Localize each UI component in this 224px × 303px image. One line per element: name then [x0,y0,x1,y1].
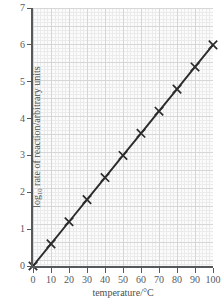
x-axis-tick [87,268,88,273]
y-axis-tick-label: 7 [11,3,25,13]
x-axis-line [31,266,213,268]
y-axis-tick-label: 4 [11,114,25,124]
x-axis-tick [51,268,52,273]
data-point-marker [137,129,145,137]
plot-svg [33,8,213,266]
data-point-marker [47,240,55,248]
x-axis-tick-label: 40 [95,275,115,285]
x-axis-tick [159,268,160,273]
data-point-marker [65,218,73,226]
data-point-marker [209,41,217,49]
x-axis-tick [195,268,196,273]
y-axis-title-suffix: rate of reaction/arbitrary units [31,66,42,188]
x-axis-tick-label: 10 [41,275,61,285]
plot-area [33,8,213,266]
data-point-marker [101,173,109,181]
x-axis-tick [105,268,106,273]
y-axis-tick-label: 3 [11,150,25,160]
x-axis-tick-label: 80 [167,275,187,285]
y-axis-tick-label: 5 [11,77,25,87]
x-axis-tick-label: 60 [131,275,151,285]
y-axis-tick-label: 0 [11,261,25,271]
x-axis-tick-label: 50 [113,275,133,285]
y-axis-tick-label: 2 [11,187,25,197]
chart-figure: 01234567 0102030405060708090100 temperat… [0,0,224,303]
y-axis-title-prefix: log [31,195,42,208]
y-axis-tick [27,266,32,267]
y-axis-tick-label: 6 [11,40,25,50]
x-axis-tick [33,268,34,273]
data-point-marker [191,63,199,71]
x-axis-tick [69,268,70,273]
data-point-marker [83,195,91,203]
x-axis-title: temperature/°C [33,287,213,298]
x-axis-tick-label: 100 [203,275,223,285]
x-axis-tick-label: 30 [77,275,97,285]
x-axis-tick [141,268,142,273]
x-axis-tick [213,268,214,273]
y-axis-title: log10 rate of reaction/arbitrary units [31,37,45,237]
x-axis-tick-label: 70 [149,275,169,285]
x-axis-tick-label: 90 [185,275,205,285]
y-axis-tick [27,8,32,9]
x-axis-tick-label: 0 [23,275,43,285]
y-axis-tick-label: 1 [11,224,25,234]
x-axis-tick [177,268,178,273]
x-axis-tick-label: 20 [59,275,79,285]
data-point-marker [155,107,163,115]
data-point-marker [173,85,181,93]
y-axis-title-subscript: 10 [36,188,43,195]
data-point-marker [119,151,127,159]
x-axis-tick [123,268,124,273]
